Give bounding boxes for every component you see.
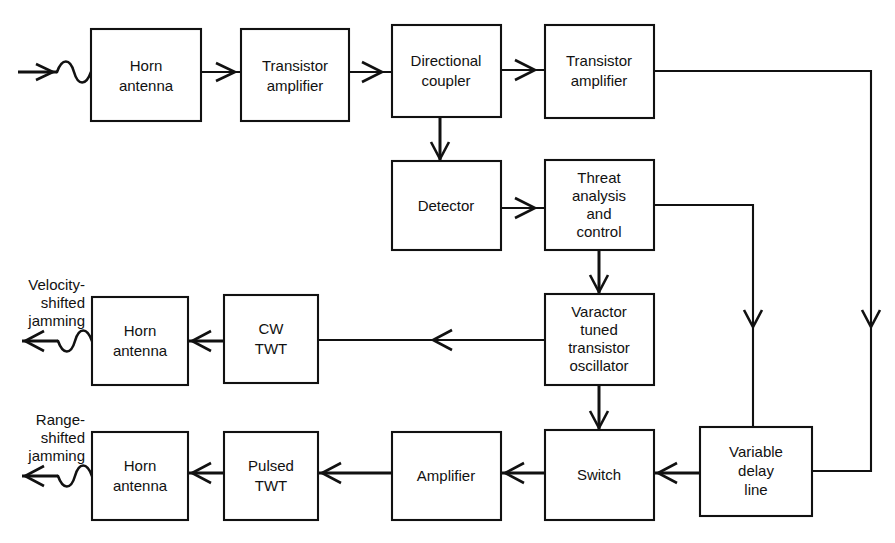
- connection-layer: [18, 60, 880, 487]
- block-transistor-amplifier-1[interactable]: Transistor amplifier: [241, 29, 349, 121]
- block-label-line: delay: [738, 462, 774, 479]
- block-label-line: antenna: [113, 342, 168, 359]
- block-label-line: Variable: [729, 443, 783, 460]
- block-label-line: CW: [259, 320, 285, 337]
- block-directional-coupler[interactable]: Directional coupler: [392, 25, 501, 117]
- edge-label-line: Range-: [36, 411, 85, 428]
- block-label-line: amplifier: [571, 72, 628, 89]
- edge-label-line: Velocity-: [28, 276, 85, 293]
- block-horn-antenna-velocity[interactable]: Horn antenna: [92, 297, 188, 385]
- velocity-output-squiggle-icon: [58, 331, 92, 352]
- block-variable-delay-line[interactable]: Variable delay line: [700, 427, 812, 516]
- rf-input-squiggle-icon: [57, 62, 91, 83]
- block-label-line: antenna: [119, 77, 174, 94]
- block-label-line: Directional: [411, 52, 482, 69]
- block-switch[interactable]: Switch: [545, 430, 654, 520]
- edge-label-line: shifted: [41, 294, 85, 311]
- block-label-line: Horn: [124, 457, 157, 474]
- wire-amp2-to-delay-line: [654, 71, 871, 471]
- block-rect: [241, 29, 349, 121]
- wire-threat-to-delay-control: [654, 205, 753, 427]
- edge-label-line: jamming: [27, 447, 85, 464]
- block-label-line: oscillator: [569, 357, 628, 374]
- block-horn-antenna-range[interactable]: Horn antenna: [92, 432, 188, 520]
- block-label-line: Transistor: [262, 57, 328, 74]
- edge-label-line: jamming: [27, 312, 85, 329]
- block-label-line: Varactor: [571, 303, 627, 320]
- block-label-line: Pulsed: [248, 457, 294, 474]
- label-velocity-shifted-jamming: Velocity- shifted jamming: [27, 276, 85, 329]
- block-label-line: antenna: [113, 477, 168, 494]
- block-label-line: analysis: [572, 187, 626, 204]
- edge-label-line: shifted: [41, 429, 85, 446]
- block-cw-twt[interactable]: CW TWT: [224, 295, 318, 383]
- block-label-line: Detector: [418, 197, 475, 214]
- block-label-line: TWT: [255, 340, 287, 357]
- block-label-line: Switch: [577, 466, 621, 483]
- block-detector[interactable]: Detector: [392, 161, 501, 250]
- block-varactor-tuned-transistor-oscillator[interactable]: Varactor tuned transistor oscillator: [545, 294, 654, 385]
- block-label-line: and: [586, 205, 611, 222]
- block-diagram-svg: Horn antenna Transistor amplifier Direct…: [0, 0, 895, 543]
- block-pulsed-twt[interactable]: Pulsed TWT: [224, 432, 318, 520]
- block-label-line: line: [744, 481, 767, 498]
- block-transistor-amplifier-2[interactable]: Transistor amplifier: [545, 25, 654, 118]
- block-rect: [91, 29, 201, 121]
- block-label-line: Horn: [130, 57, 163, 74]
- label-range-shifted-jamming: Range- shifted jamming: [27, 411, 85, 464]
- block-label-line: Threat: [577, 169, 621, 186]
- block-label-line: Transistor: [566, 52, 632, 69]
- block-label-line: Horn: [124, 322, 157, 339]
- block-label-line: amplifier: [267, 77, 324, 94]
- block-label-line: tuned: [580, 321, 618, 338]
- block-diagram-canvas: Horn antenna Transistor amplifier Direct…: [0, 0, 895, 543]
- block-label-line: control: [576, 223, 621, 240]
- edge-label-layer: Velocity- shifted jamming Range- shifted…: [27, 276, 85, 464]
- block-label-line: coupler: [421, 72, 470, 89]
- block-label-line: transistor: [568, 339, 630, 356]
- block-amplifier[interactable]: Amplifier: [392, 432, 501, 520]
- block-layer: Horn antenna Transistor amplifier Direct…: [91, 25, 812, 520]
- range-output-squiggle-icon: [58, 466, 92, 487]
- block-label-line: Amplifier: [417, 467, 475, 484]
- block-horn-antenna-input[interactable]: Horn antenna: [91, 29, 201, 121]
- block-label-line: TWT: [255, 477, 287, 494]
- block-threat-analysis-and-control[interactable]: Threat analysis and control: [545, 160, 654, 250]
